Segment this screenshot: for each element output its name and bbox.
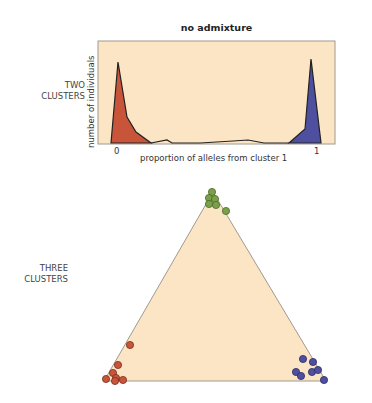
y-axis-label: number of individuals [86, 48, 96, 148]
figure-canvas [0, 0, 372, 403]
x-tick-1: 1 [314, 146, 319, 156]
x-tick-0: 0 [114, 146, 119, 156]
ternary-triangle [104, 192, 326, 381]
x-axis-label: proportion of alleles from cluster 1 [140, 153, 287, 163]
